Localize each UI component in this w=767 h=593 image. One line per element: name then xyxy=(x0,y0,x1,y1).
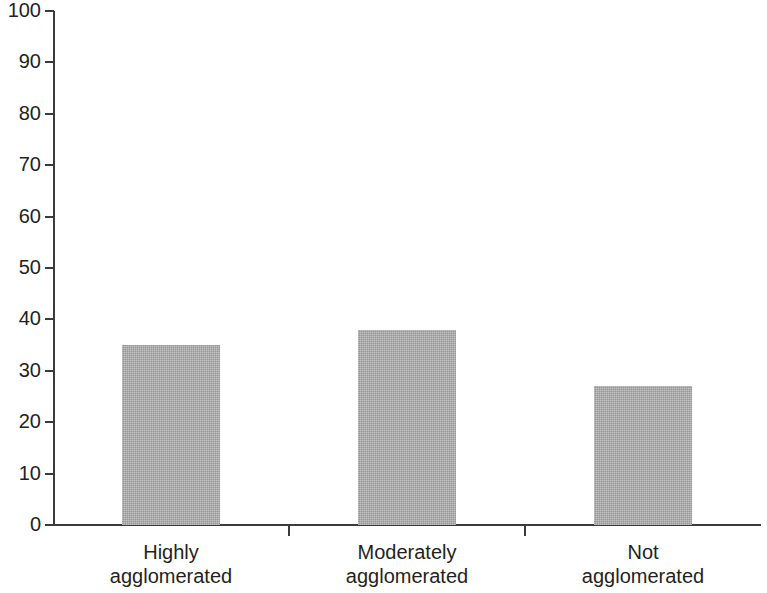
y-axis-tick-label: 30 xyxy=(0,360,41,380)
x-axis-category-label: Highlyagglomerated xyxy=(53,540,289,588)
y-axis-tick-label: 50 xyxy=(0,257,41,277)
x-axis-category-label: Notagglomerated xyxy=(525,540,761,588)
bar xyxy=(122,345,220,525)
plot-area xyxy=(53,11,761,525)
y-axis-tick-label: 60 xyxy=(0,206,41,226)
x-axis-tick xyxy=(288,526,290,536)
x-axis-category-label: Moderatelyagglomerated xyxy=(289,540,525,588)
y-axis-tick-label: 80 xyxy=(0,103,41,123)
x-axis-tick xyxy=(524,526,526,536)
x-axis-category-label-line: agglomerated xyxy=(53,564,289,588)
y-axis-tick-label: 40 xyxy=(0,308,41,328)
y-axis-tick-label: 70 xyxy=(0,154,41,174)
bar xyxy=(358,330,456,525)
bar-chart: 0102030405060708090100 Highlyagglomerate… xyxy=(0,0,767,593)
x-axis-category-label-line: Not xyxy=(525,540,761,564)
x-axis-category-label-line: agglomerated xyxy=(289,564,525,588)
y-axis-tick-label: 10 xyxy=(0,463,41,483)
y-axis-tick-label: 90 xyxy=(0,51,41,71)
x-axis-category-label-line: Moderately xyxy=(289,540,525,564)
y-axis-tick-label: 100 xyxy=(0,0,41,20)
x-axis-category-label-line: agglomerated xyxy=(525,564,761,588)
bar xyxy=(594,386,692,525)
y-axis-tick-label: 0 xyxy=(0,514,41,534)
x-axis-category-label-line: Highly xyxy=(53,540,289,564)
y-axis-tick-label: 20 xyxy=(0,411,41,431)
